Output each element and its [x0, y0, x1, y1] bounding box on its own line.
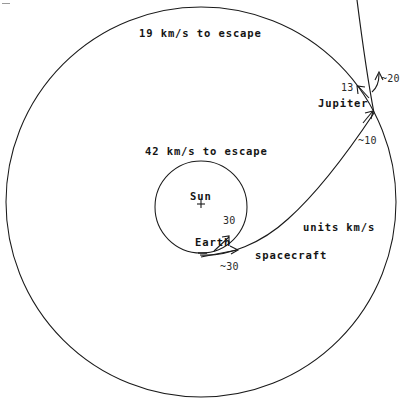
- inner-escape-label: 42 km/s to escape: [145, 146, 268, 157]
- units-label: units km/s: [303, 222, 375, 233]
- diagram-canvas: [0, 0, 403, 408]
- spacecraft-approach-speed-value: ~10: [358, 136, 377, 146]
- earth-label: Earth: [195, 237, 231, 248]
- gravity-assist-diagram: 19 km/s to escape 42 km/s to escape Sun …: [0, 0, 403, 408]
- earth-speed-value: 30: [223, 216, 235, 226]
- scan-artifact-tick: [2, 3, 10, 4]
- spacecraft-earth-speed-value: ~30: [220, 262, 239, 272]
- jupiter-label: Jupiter: [318, 98, 369, 109]
- jupiter-speed-value: 13: [341, 83, 353, 93]
- outer-escape-label: 19 km/s to escape: [139, 28, 262, 39]
- sun-label: Sun: [190, 191, 212, 202]
- spacecraft-label: spacecraft: [255, 250, 327, 261]
- spacecraft-trajectory-path: [200, 113, 374, 255]
- spacecraft-departure-speed-value: ~20: [381, 74, 400, 84]
